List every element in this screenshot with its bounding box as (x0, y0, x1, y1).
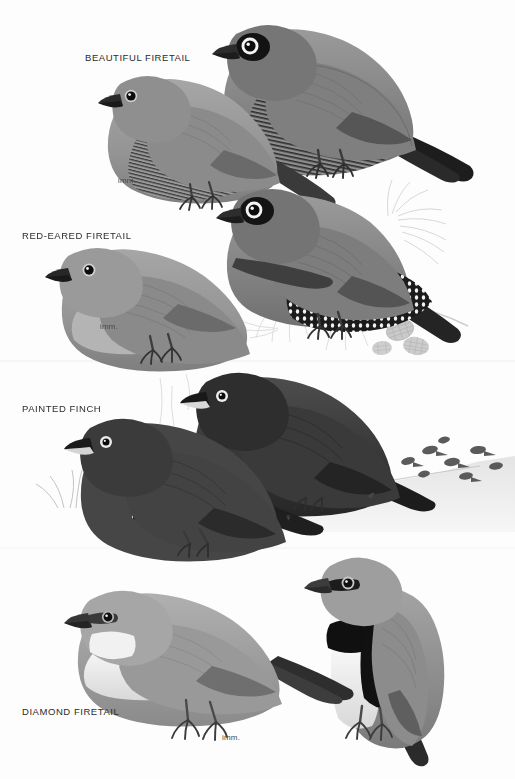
imm-annotation-beautiful-firetail: imm. (118, 176, 136, 185)
imm-annotation-diamond-firetail: imm. (222, 733, 240, 742)
species-label-painted-finch: PAINTED FINCH (22, 403, 101, 414)
female-symbol-painted-finch: ♀ (284, 512, 292, 523)
species-label-beautiful-firetail: BEAUTIFUL FIRETAIL (85, 52, 190, 63)
plate-illustration (0, 0, 515, 779)
imm-annotation-red-eared-firetail: imm. (100, 322, 118, 331)
bird-diamond-firetail-adult (304, 557, 444, 766)
bird-plate: BEAUTIFUL FIRETAIL imm. RED-EARED FIRETA… (0, 0, 515, 779)
bird-diamond-firetail-immature (64, 591, 354, 740)
male-symbol-painted-finch: ♂ (367, 490, 375, 501)
species-label-diamond-firetail: DIAMOND FIRETAIL (22, 706, 119, 717)
species-label-red-eared-firetail: RED-EARED FIRETAIL (22, 230, 132, 241)
